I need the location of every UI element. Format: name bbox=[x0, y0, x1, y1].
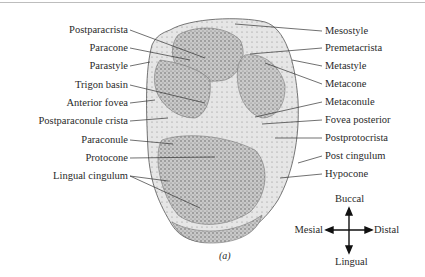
label-metacone: Metacone bbox=[325, 78, 366, 90]
label-protocone: Protocone bbox=[85, 152, 128, 164]
label-metastyle: Metastyle bbox=[325, 60, 366, 72]
label-hypocone: Hypocone bbox=[325, 168, 368, 180]
compass-buccal: Buccal bbox=[335, 193, 364, 205]
label-metaconule: Metaconule bbox=[325, 96, 375, 108]
label-postprotocrista: Postprotocrista bbox=[325, 132, 388, 144]
label-paraconule: Paraconule bbox=[81, 134, 128, 146]
label-anterior-fovea: Anterior fovea bbox=[66, 97, 128, 109]
label-parastyle: Parastyle bbox=[90, 60, 129, 72]
label-postparaconule-crista: Postparaconule crista bbox=[38, 115, 128, 127]
label-mesostyle: Mesostyle bbox=[325, 25, 368, 37]
label-lingual-cingulum: Lingual cingulum bbox=[53, 170, 128, 182]
label-post-cingulum: Post cingulum bbox=[325, 150, 385, 162]
label-trigon-basin: Trigon basin bbox=[75, 79, 128, 91]
compass-mesial: Mesial bbox=[294, 224, 323, 236]
label-postparacrista: Postparacrista bbox=[69, 24, 128, 36]
label-premetacrista: Premetacrista bbox=[325, 42, 382, 54]
compass-distal: Distal bbox=[374, 224, 399, 236]
compass-lingual: Lingual bbox=[335, 256, 368, 268]
label-paracone: Paracone bbox=[90, 42, 128, 54]
label-fovea-posterior: Fovea posterior bbox=[325, 114, 391, 126]
figure-caption: (a) bbox=[219, 250, 231, 261]
